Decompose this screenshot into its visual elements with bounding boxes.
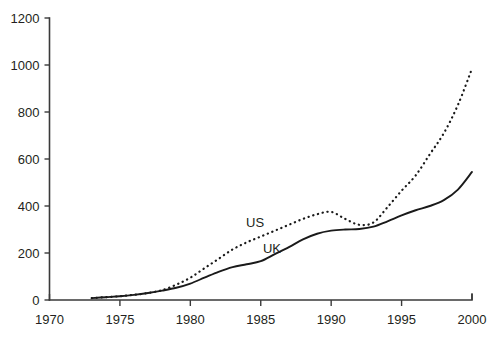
x-tick-label: 2000 (458, 312, 487, 327)
x-tick-label: 1975 (105, 312, 134, 327)
x-tick-label: 1980 (176, 312, 205, 327)
data-series (92, 69, 472, 299)
y-tick-label: 1200 (11, 11, 40, 26)
x-tick-label: 1995 (387, 312, 416, 327)
series-label-uk: UK (263, 241, 281, 256)
y-tick-label: 800 (18, 105, 40, 120)
series-label-us: US (246, 215, 264, 230)
y-tick-label: 1000 (11, 58, 40, 73)
x-tick-label: 1990 (317, 312, 346, 327)
x-tick-label: 1970 (35, 312, 64, 327)
series-line-uk (92, 172, 472, 298)
y-tick-label: 600 (18, 152, 40, 167)
y-tick-label: 400 (18, 199, 40, 214)
line-chart: 020040060080010001200 197019751980198519… (0, 0, 493, 340)
x-tick-label: 1985 (246, 312, 275, 327)
chart-canvas: 020040060080010001200 197019751980198519… (0, 0, 493, 340)
x-axis-tick-labels: 1970197519801985199019952000 (35, 312, 486, 327)
y-axis-tick-labels: 020040060080010001200 (11, 11, 40, 308)
y-tick-label: 200 (18, 246, 40, 261)
series-line-us (92, 69, 472, 299)
y-tick-label: 0 (32, 293, 39, 308)
